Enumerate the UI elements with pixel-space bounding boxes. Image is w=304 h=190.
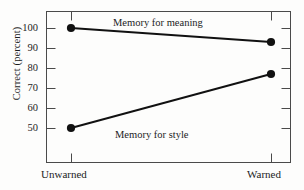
series-label-memory-for-meaning: Memory for meaning [113,18,203,29]
y-tick-label-60: 60 [8,103,38,114]
y-axis-ticks-right [282,29,291,129]
series-memory-for-style [67,70,275,132]
x-tick-label-warned: Warned [247,169,281,180]
x-tick-label-unwarned: Unwarned [41,169,87,180]
y-axis-ticks [47,29,56,129]
data-point [67,124,75,132]
y-tick-label-90: 90 [8,43,38,54]
series-label-memory-for-style: Memory for style [115,130,189,141]
data-point [267,70,275,78]
y-tick-label-100: 100 [8,23,38,34]
line-chart-canvas [0,0,304,190]
y-tick-label-80: 80 [8,63,38,74]
data-point [67,24,75,32]
y-tick-label-50: 50 [8,123,38,134]
chart-figure: Correct (percent) 100 90 80 70 60 50 Unw… [0,0,304,190]
data-point [267,38,275,46]
y-tick-label-70: 70 [8,83,38,94]
